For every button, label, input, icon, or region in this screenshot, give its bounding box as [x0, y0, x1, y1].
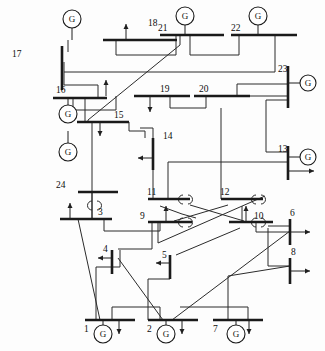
- line-4-2: [118, 258, 163, 320]
- bus-3-label: 3: [98, 207, 103, 217]
- bus-layer: [53, 35, 297, 320]
- load-18-arrowhead-icon: [124, 24, 129, 29]
- load-4: [98, 256, 112, 261]
- bus-17-label: 17: [12, 49, 22, 59]
- line-11-10: [190, 205, 244, 221]
- line-15-14: [129, 122, 145, 138]
- bus-6-label: 6: [290, 208, 295, 218]
- gen-2[interactable]: G: [157, 320, 175, 343]
- gen-16-label: G: [65, 109, 72, 119]
- gen-1-label: G: [100, 329, 107, 339]
- bus-7-label: 7: [213, 324, 218, 334]
- load-13: [288, 169, 314, 174]
- bus-12-label: 12: [220, 187, 230, 197]
- bus-23-label: 23: [278, 64, 288, 74]
- power-system-diagram: GGGGGGGGGG 17182122231619201514132411123…: [0, 0, 325, 351]
- branch-layer: [64, 35, 290, 320]
- line-2-7: [180, 307, 248, 320]
- load-8: [290, 269, 310, 274]
- load-4-arrowhead-icon: [98, 256, 103, 261]
- bus-16-label: 16: [56, 85, 66, 95]
- line-5-2: [148, 268, 170, 320]
- load-15: [98, 122, 103, 136]
- load-19a: [104, 80, 109, 96]
- load-18: [124, 24, 129, 40]
- gen-16[interactable]: G: [59, 98, 77, 123]
- bus-19-label: 19: [160, 84, 170, 94]
- bus-14-label: 14: [163, 131, 173, 141]
- line-14-16: [140, 128, 153, 138]
- gen-15-label: G: [65, 147, 72, 157]
- load-13-arrowhead-icon: [309, 169, 314, 174]
- gen-23a[interactable]: G: [288, 75, 316, 91]
- gen-13[interactable]: G: [288, 149, 316, 165]
- load-15-arrowhead-icon: [98, 131, 103, 136]
- bus-24-label: 24: [56, 180, 66, 190]
- xfmr-3-winding-a: [88, 201, 93, 210]
- generator-layer: GGGGGGGGGG: [59, 7, 316, 343]
- load-2-arrowhead-icon: [180, 329, 185, 334]
- bus-4-label: 4: [103, 244, 108, 254]
- gen-1[interactable]: G: [94, 320, 112, 343]
- bus-20-label: 20: [199, 84, 209, 94]
- bus-13-label: 13: [278, 144, 288, 154]
- load-14-arrowhead-icon: [138, 156, 143, 161]
- load-19b: [148, 96, 153, 112]
- gen-21[interactable]: G: [176, 7, 194, 35]
- load-7-arrowhead-icon: [247, 329, 252, 334]
- load-7: [247, 320, 252, 334]
- gen-18[interactable]: G: [63, 10, 81, 40]
- line-21-22: [190, 35, 239, 55]
- line-21-15: [88, 35, 180, 122]
- line-9-4: [118, 222, 152, 249]
- line-5-10: [176, 228, 240, 255]
- load-10: [244, 206, 249, 222]
- gen-21-label: G: [182, 11, 189, 21]
- load-8-arrowhead-icon: [305, 269, 310, 274]
- line-18-21: [116, 35, 176, 55]
- line-12-9: [174, 205, 228, 221]
- gen-22-label: G: [255, 11, 262, 21]
- load-5: [156, 261, 170, 266]
- load-1-arrowhead-icon: [117, 329, 122, 334]
- gen-2-label: G: [163, 329, 170, 339]
- gen-18-label: G: [69, 14, 76, 24]
- load-1: [117, 320, 122, 334]
- bus-10-label: 10: [254, 211, 264, 221]
- line-19-20: [170, 96, 206, 108]
- bus-15-label: 15: [114, 110, 124, 120]
- load-2: [180, 320, 185, 334]
- load-5-arrowhead-icon: [156, 261, 161, 266]
- bus-1-label: 1: [84, 324, 89, 334]
- gen-7[interactable]: G: [227, 320, 245, 343]
- bus-5-label: 5: [162, 250, 167, 260]
- load-19b-arrowhead-icon: [148, 107, 153, 112]
- load-6: [290, 230, 310, 235]
- load-19a-arrowhead-icon: [104, 80, 109, 85]
- line-20-23b: [237, 84, 288, 96]
- gen-23a-label: G: [305, 78, 312, 88]
- bus-22-label: 22: [231, 23, 241, 33]
- line-1-2: [112, 307, 160, 320]
- gen-22[interactable]: G: [249, 7, 267, 35]
- bus-8-label: 8: [291, 247, 296, 257]
- bus-label-layer: 171821222316192015141324111239106845127: [12, 18, 296, 334]
- bus-18-label: 18: [148, 18, 158, 28]
- gen-15[interactable]: G: [59, 131, 77, 161]
- line-17-16: [64, 62, 98, 98]
- bus-2-label: 2: [147, 324, 152, 334]
- load-3-arrowhead-icon: [68, 203, 73, 208]
- load-3: [68, 203, 73, 219]
- line-7-8: [228, 266, 290, 320]
- gen-7-label: G: [233, 329, 240, 339]
- line-9-12: [158, 196, 265, 243]
- line-3-1: [78, 219, 100, 320]
- single-line-diagram-canvas: GGGGGGGGGG 17182122231619201514132411123…: [0, 0, 325, 351]
- bus-9-label: 9: [140, 211, 145, 221]
- bus-11-label: 11: [147, 187, 156, 197]
- gen-13-label: G: [305, 152, 312, 162]
- line-4-1: [96, 250, 120, 320]
- load-10-arrowhead-icon: [244, 206, 249, 211]
- load-14: [138, 156, 153, 161]
- bus-21-label: 21: [158, 23, 168, 33]
